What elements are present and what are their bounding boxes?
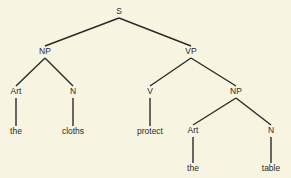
node-n2: N [268,125,274,135]
word-cloths: cloths [62,126,84,136]
word-table: table [262,163,281,173]
edge-S-VP [119,18,191,46]
node-s: S [116,6,122,16]
node-art2: Art [188,125,200,135]
node-np2: NP [230,86,242,96]
edge-VP-NP2 [191,58,236,86]
tree-labels: SNPVPArtNtheclothsVNPprotectArtNthetable [10,6,280,173]
edge-NP2-Art2 [193,98,236,125]
node-v: V [147,86,153,96]
node-art1: Art [11,86,23,96]
edge-NP1-N1 [45,58,73,86]
word-the1: the [10,126,22,136]
word-protect: protect [137,126,164,136]
edge-NP1-Art1 [16,58,45,86]
word-the2: the [187,163,199,173]
node-n1: N [70,86,76,96]
node-np1: NP [39,46,51,56]
edge-NP2-N2 [236,98,271,125]
edge-VP-V [150,58,191,86]
node-vp: VP [185,46,197,56]
syntax-tree: SNPVPArtNtheclothsVNPprotectArtNthetable [0,0,291,178]
edge-S-NP1 [45,18,119,46]
